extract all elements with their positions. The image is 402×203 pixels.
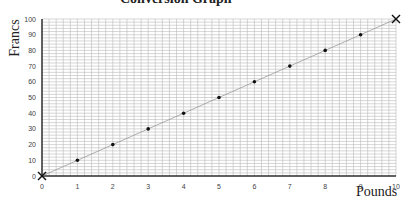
data-point xyxy=(359,33,363,37)
data-point xyxy=(76,159,80,163)
y-tick-label: 0 xyxy=(32,173,36,180)
y-tick-label: 60 xyxy=(28,78,36,85)
y-tick-label: 80 xyxy=(28,47,36,54)
x-tick-label: 2 xyxy=(111,183,115,190)
x-tick-label: 4 xyxy=(182,183,186,190)
x-tick-label: 0 xyxy=(40,183,44,190)
y-tick-label: 10 xyxy=(28,157,36,164)
y-tick-label: 20 xyxy=(28,141,36,148)
y-tick-label: 70 xyxy=(28,63,36,70)
x-tick-label: 7 xyxy=(288,183,292,190)
x-tick-label: 3 xyxy=(146,183,150,190)
data-point xyxy=(323,49,327,53)
y-tick-label: 90 xyxy=(28,31,36,38)
y-tick-label: 40 xyxy=(28,110,36,117)
data-point xyxy=(253,80,257,84)
data-point xyxy=(182,111,186,115)
x-tick-label: 9 xyxy=(359,183,363,190)
y-tick-label: 100 xyxy=(24,16,36,23)
data-point xyxy=(217,96,221,100)
x-tick-label: 10 xyxy=(392,183,400,190)
data-point xyxy=(111,143,115,147)
x-tick-label: 8 xyxy=(323,183,327,190)
data-point xyxy=(288,64,292,68)
y-tick-label: 50 xyxy=(28,94,36,101)
data-point xyxy=(146,127,150,131)
x-tick-label: 1 xyxy=(75,183,79,190)
x-tick-label: 6 xyxy=(252,183,256,190)
chart-plot: 0123456789100102030405060708090100 xyxy=(0,0,402,203)
y-tick-label: 30 xyxy=(28,125,36,132)
x-tick-label: 5 xyxy=(217,183,221,190)
